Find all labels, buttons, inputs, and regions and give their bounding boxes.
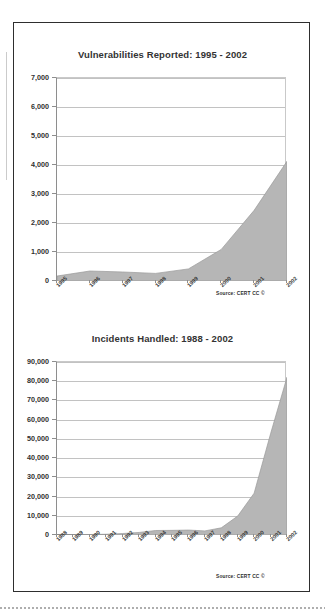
incidents-plot-area — [56, 361, 286, 534]
chart-vulnerabilities: Vulnerabilities Reported: 1995 - 2002 7,… — [14, 27, 311, 317]
y-tick-mark — [52, 419, 56, 420]
vulnerabilities-area-series — [57, 78, 287, 281]
chart-incidents-source-note: Source: CERT CC © — [216, 574, 265, 579]
y-axis-tick-label: 4,000 — [14, 160, 49, 169]
y-axis-tick-label: 6,000 — [14, 102, 49, 111]
y-axis-tick-label: 1,000 — [14, 247, 49, 256]
vulnerabilities-plot-area — [56, 77, 286, 280]
y-tick-mark — [52, 438, 56, 439]
y-tick-mark — [52, 380, 56, 381]
scan-artifact-bottom-rule — [0, 607, 325, 609]
y-axis-tick-label: 0 — [14, 530, 49, 539]
y-tick-mark — [52, 457, 56, 458]
y-axis-tick-label: 5,000 — [14, 131, 49, 140]
y-axis-tick-label: 60,000 — [14, 415, 49, 424]
incidents-area-series — [57, 362, 287, 535]
y-axis-tick-label: 30,000 — [14, 472, 49, 481]
chart-incidents: Incidents Handled: 1988 - 2002 90,00080,… — [14, 323, 311, 589]
y-tick-mark — [52, 399, 56, 400]
y-tick-mark — [52, 496, 56, 497]
document-page-frame: Vulnerabilities Reported: 1995 - 2002 7,… — [13, 22, 310, 592]
y-axis-tick-label: 70,000 — [14, 395, 49, 404]
y-tick-mark — [52, 515, 56, 516]
y-axis-tick-label: 0 — [14, 276, 49, 285]
scan-artifact-left-edge — [6, 52, 7, 180]
y-tick-mark — [52, 77, 56, 78]
y-tick-mark — [52, 193, 56, 194]
y-tick-mark — [52, 135, 56, 136]
y-tick-mark — [52, 251, 56, 252]
y-tick-mark — [52, 361, 56, 362]
y-tick-mark — [52, 476, 56, 477]
y-axis-tick-label: 7,000 — [14, 73, 49, 82]
y-axis-tick-label: 20,000 — [14, 492, 49, 501]
y-axis-tick-label: 2,000 — [14, 218, 49, 227]
y-tick-mark — [52, 222, 56, 223]
y-axis-tick-label: 50,000 — [14, 434, 49, 443]
y-axis-tick-label: 3,000 — [14, 189, 49, 198]
y-tick-mark — [52, 164, 56, 165]
y-axis-tick-label: 90,000 — [14, 357, 49, 366]
chart-vulnerabilities-source-note: Source: CERT CC © — [216, 291, 265, 296]
y-axis-tick-label: 40,000 — [14, 453, 49, 462]
y-axis-tick-label: 10,000 — [14, 511, 49, 520]
chart-vulnerabilities-title: Vulnerabilities Reported: 1995 - 2002 — [14, 27, 311, 60]
chart-incidents-title: Incidents Handled: 1988 - 2002 — [14, 323, 311, 344]
y-axis-tick-label: 80,000 — [14, 376, 49, 385]
y-tick-mark — [52, 106, 56, 107]
